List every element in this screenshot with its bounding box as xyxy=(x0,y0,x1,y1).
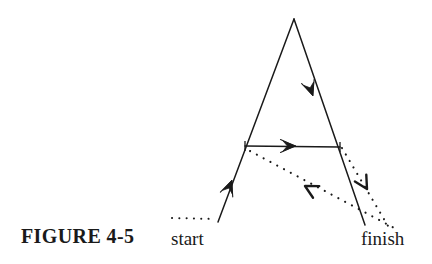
start-label: start xyxy=(171,229,204,248)
return-dotted-diagonal xyxy=(250,151,396,229)
arrowhead-down-right-dotted-icon xyxy=(355,175,373,193)
arrowhead-down-right-line-icon xyxy=(302,79,320,98)
figure-container: FIGURE 4-5 start finish xyxy=(0,0,432,264)
start-dotted-lead-in xyxy=(172,218,214,219)
finish-label: finish xyxy=(361,229,404,248)
figure-caption: FIGURE 4-5 xyxy=(21,226,134,246)
right-descending-line xyxy=(294,19,365,225)
left-ascending-line xyxy=(218,19,294,222)
